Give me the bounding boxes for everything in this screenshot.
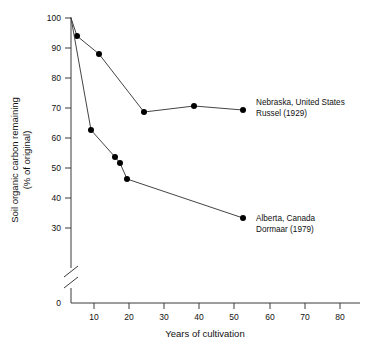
- data-point: [240, 107, 246, 113]
- data-point: [117, 160, 123, 166]
- series-alberta-line: [71, 18, 243, 218]
- y-axis: 100 90 80 70 60 50 40 30 0: [47, 13, 78, 308]
- x-tick-label-10: 10: [89, 312, 99, 322]
- y-tick-label-60: 60: [52, 133, 62, 143]
- data-point: [240, 215, 246, 221]
- line-chart-canvas: 100 90 80 70 60 50 40 30 0 10 20 30 40 5…: [0, 0, 366, 341]
- series-label-alberta-line2: Dormaar (1979): [256, 225, 314, 234]
- y-tick-label-0: 0: [56, 298, 61, 308]
- y-tick-label-30: 30: [52, 223, 62, 233]
- data-point: [88, 127, 94, 133]
- y-axis-break-icon: [64, 266, 78, 288]
- series-label-nebraska-line1: Nebraska, United States: [256, 98, 345, 107]
- series-alberta: Alberta, Canada Dormaar (1979): [71, 18, 316, 234]
- data-point: [124, 176, 130, 182]
- x-tick-label-70: 70: [300, 312, 310, 322]
- data-point: [96, 51, 102, 57]
- x-axis: 10 20 30 40 50 60 70 80 Years of cultiva…: [71, 303, 360, 339]
- y-tick-label-70: 70: [52, 103, 62, 113]
- y-tick-label-90: 90: [52, 43, 62, 53]
- data-point: [191, 103, 197, 109]
- x-tick-label-40: 40: [194, 312, 204, 322]
- x-tick-label-60: 60: [265, 312, 275, 322]
- x-tick-label-80: 80: [335, 312, 345, 322]
- y-axis-title-line1: Soil organic carbon remaining: [9, 97, 20, 223]
- x-tick-label-20: 20: [124, 312, 134, 322]
- y-tick-label-80: 80: [52, 73, 62, 83]
- y-tick-label-50: 50: [52, 163, 62, 173]
- series-nebraska: Nebraska, United States Russel (1929): [71, 18, 345, 118]
- x-axis-title: Years of cultivation: [165, 328, 244, 339]
- series-label-alberta-line1: Alberta, Canada: [256, 214, 316, 223]
- y-tick-label-100: 100: [47, 13, 61, 23]
- y-tick-label-40: 40: [52, 193, 62, 203]
- data-point: [112, 154, 118, 160]
- series-nebraska-line: [71, 18, 243, 112]
- y-axis-title: Soil organic carbon remaining (% of orig…: [9, 97, 32, 223]
- x-tick-label-30: 30: [159, 312, 169, 322]
- y-axis-title-line2: (% of original): [21, 131, 32, 190]
- x-tick-label-50: 50: [229, 312, 239, 322]
- data-point: [141, 109, 147, 115]
- chart-figure: 100 90 80 70 60 50 40 30 0 10 20 30 40 5…: [0, 0, 366, 341]
- series-label-nebraska-line2: Russel (1929): [256, 109, 307, 118]
